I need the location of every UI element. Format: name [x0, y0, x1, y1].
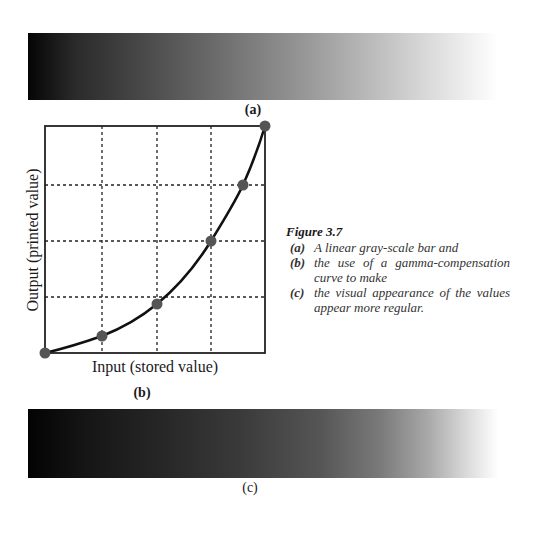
caption-item-a: (a) A linear gray-scale bar and: [286, 240, 510, 255]
figure-caption: Figure 3.7 (a) A linear gray-scale bar a…: [286, 224, 510, 315]
gamma-curve: [45, 126, 265, 353]
caption-item-c: (c) the visual appearance of the values …: [286, 285, 510, 315]
x-axis-label: Input (stored value): [92, 358, 218, 376]
chart-grid: [45, 126, 265, 353]
y-axis-label: Output (printed value): [24, 168, 42, 311]
gamma-compensated-grayscale-bar: [28, 409, 498, 478]
caption-item-b: (b) the use of a gamma-compensation curv…: [286, 255, 510, 285]
panel-label-b: (b): [133, 385, 150, 401]
chart-frame: [45, 126, 265, 353]
curve-markers: [40, 121, 271, 359]
panel-label-c: (c): [242, 480, 258, 496]
figure-title: Figure 3.7: [286, 224, 510, 239]
